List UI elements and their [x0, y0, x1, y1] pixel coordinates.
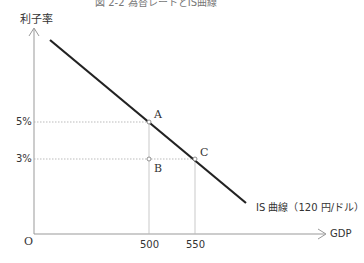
- point-a-label: A: [154, 109, 162, 120]
- y-axis-label: 利子率: [20, 14, 53, 25]
- x-axis-label: GDP: [330, 229, 351, 239]
- point-b-label: B: [154, 163, 162, 174]
- is-curve-diagram: [0, 0, 364, 263]
- y-tick-3pct: 3%: [16, 154, 32, 164]
- y-tick-5pct: 5%: [16, 117, 32, 127]
- x-tick-500: 500: [140, 240, 159, 250]
- point-c-label: C: [200, 147, 208, 158]
- x-tick-550: 550: [186, 240, 205, 250]
- is-curve-label: IS 曲線（120 円/ドル）: [256, 203, 364, 213]
- point-c: [193, 157, 197, 161]
- origin-label: O: [24, 236, 33, 247]
- point-a: [147, 120, 151, 124]
- point-b: [147, 157, 151, 161]
